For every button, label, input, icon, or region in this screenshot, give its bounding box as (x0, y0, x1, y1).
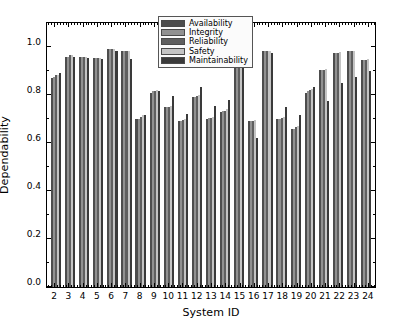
x-axis-tick-label: 9 (151, 291, 157, 301)
x-axis-tick-label: 23 (348, 291, 359, 301)
x-axis-minor-tick (348, 23, 349, 25)
x-axis-minor-tick (297, 285, 298, 287)
x-axis-minor-tick (211, 285, 212, 287)
x-axis-minor-tick (297, 23, 298, 25)
x-axis-minor-tick (368, 23, 369, 25)
legend-swatch-icon (161, 48, 185, 55)
x-axis-minor-tick (288, 285, 289, 287)
y-axis-minor-tick (47, 262, 49, 263)
x-axis-minor-tick (48, 285, 49, 287)
bar-group (303, 23, 317, 287)
x-axis-minor-tick (191, 285, 192, 287)
x-axis-minor-tick (154, 23, 155, 25)
x-axis-minor-tick (134, 285, 135, 287)
y-axis-minor-tick (373, 166, 375, 167)
x-axis-minor-tick (222, 285, 223, 287)
bar-group (275, 23, 289, 287)
x-axis-minor-tick (103, 285, 104, 287)
x-axis-tick-label: 18 (277, 291, 288, 301)
x-axis-minor-tick (319, 23, 320, 25)
x-axis-minor-tick (83, 285, 84, 287)
y-axis-tick (47, 190, 51, 191)
legend-label: Safety (189, 47, 215, 56)
bar-group (260, 23, 274, 287)
x-axis-tick-label: 10 (162, 291, 173, 301)
x-axis-minor-tick (174, 285, 175, 287)
x-axis-minor-tick (254, 23, 255, 25)
x-axis-minor-tick (351, 23, 352, 25)
x-axis-minor-tick (319, 285, 320, 287)
x-axis-minor-tick (214, 285, 215, 287)
x-axis-minor-tick (336, 285, 337, 287)
x-axis-minor-tick (348, 285, 349, 287)
x-axis-minor-tick (245, 285, 246, 287)
bar-group (317, 23, 331, 287)
y-axis-minor-tick (373, 214, 375, 215)
x-axis-minor-tick (242, 285, 243, 287)
x-axis-minor-tick (342, 285, 343, 287)
x-axis-minor-tick (365, 285, 366, 287)
bar (256, 138, 258, 287)
x-axis-tick-label: 13 (205, 291, 216, 301)
x-axis-minor-tick (208, 285, 209, 287)
y-axis-tick (47, 142, 51, 143)
x-axis-minor-tick (125, 23, 126, 25)
bar-group (105, 23, 119, 287)
legend-label: Integrity (189, 28, 223, 37)
x-axis-minor-tick (88, 23, 89, 25)
legend-label: Reliability (189, 37, 228, 46)
legend-item: Availability (161, 19, 248, 28)
x-axis-minor-tick (374, 23, 375, 25)
y-axis-tick-label: 0.2 (27, 229, 41, 239)
x-axis-minor-tick (325, 285, 326, 287)
x-axis-minor-tick (288, 23, 289, 25)
bar (355, 77, 357, 287)
x-axis-minor-tick (57, 23, 58, 25)
x-axis-minor-tick (265, 285, 266, 287)
x-axis-minor-tick (91, 285, 92, 287)
x-axis-minor-tick (100, 23, 101, 25)
x-axis-minor-tick (51, 23, 52, 25)
x-axis-tick-label: 2 (51, 291, 57, 301)
bar-chart-figure: Dependability System ID 0.00.20.40.60.81… (0, 0, 407, 330)
x-axis-minor-tick (71, 23, 72, 25)
x-axis-minor-tick (71, 285, 72, 287)
x-axis-minor-tick (334, 285, 335, 287)
y-axis-tick (371, 190, 375, 191)
x-axis-minor-tick (328, 285, 329, 287)
x-axis-minor-tick (331, 23, 332, 25)
x-axis-minor-tick (103, 23, 104, 25)
x-axis-minor-tick (331, 285, 332, 287)
bar (285, 107, 287, 287)
bar (115, 51, 117, 287)
x-axis-minor-tick (131, 285, 132, 287)
x-axis-minor-tick (311, 285, 312, 287)
legend-item: Reliability (161, 37, 248, 46)
x-axis-minor-tick (66, 285, 67, 287)
x-axis-minor-tick (140, 285, 141, 287)
x-axis-minor-tick (314, 23, 315, 25)
x-axis-minor-tick (143, 23, 144, 25)
x-axis-minor-tick (285, 285, 286, 287)
y-axis-minor-tick (47, 70, 49, 71)
legend-swatch-icon (161, 57, 185, 64)
x-axis-minor-tick (182, 285, 183, 287)
x-axis-minor-tick (97, 285, 98, 287)
x-axis-minor-tick (88, 285, 89, 287)
x-axis-minor-tick (336, 23, 337, 25)
x-axis-minor-tick (257, 285, 258, 287)
x-axis-minor-tick (134, 23, 135, 25)
x-axis-minor-tick (123, 285, 124, 287)
y-axis-minor-tick (47, 118, 49, 119)
bar (200, 87, 202, 287)
bar (186, 114, 188, 287)
x-axis-minor-tick (194, 285, 195, 287)
x-axis-tick-label: 17 (262, 291, 273, 301)
x-axis-minor-tick (117, 23, 118, 25)
y-axis-tick-label: 0.8 (27, 85, 41, 95)
bar-group (77, 23, 91, 287)
x-axis-minor-tick (77, 285, 78, 287)
x-axis-minor-tick (240, 285, 241, 287)
x-axis-minor-tick (114, 23, 115, 25)
x-axis-minor-tick (74, 23, 75, 25)
